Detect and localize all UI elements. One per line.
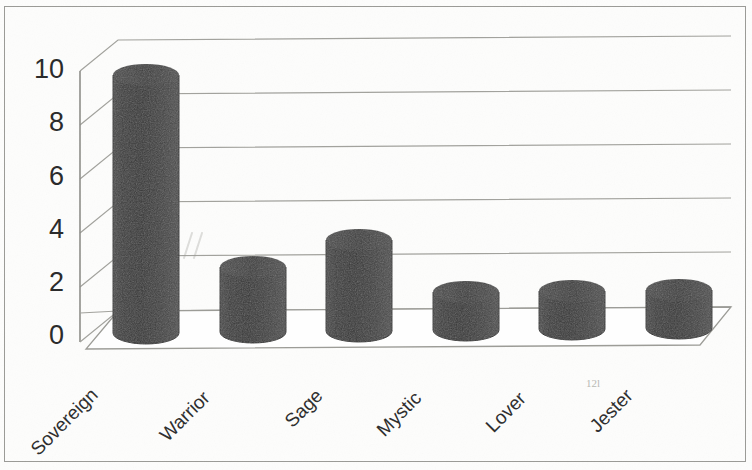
bar-sage[interactable]	[326, 229, 392, 342]
chart-container: 10 8 6 4 2 0 Sovereign Warrior Sage Myst…	[0, 0, 752, 470]
floor-plane	[86, 307, 731, 349]
y-tick-label-0: 0	[2, 320, 64, 351]
y-tick-label-10: 10	[2, 54, 64, 85]
y-tick-label-8: 8	[2, 107, 64, 138]
bar-sovereign[interactable]	[113, 64, 179, 344]
y-tick-label-4: 4	[2, 214, 64, 245]
y-tick-label-6: 6	[2, 161, 64, 192]
y-tick-label-2: 2	[2, 267, 64, 298]
bar-mystic[interactable]	[433, 281, 499, 341]
chart-plot-area	[0, 0, 752, 470]
bar-lover[interactable]	[539, 280, 605, 340]
bar-jester[interactable]	[646, 279, 712, 339]
bar-warrior[interactable]	[220, 256, 286, 343]
